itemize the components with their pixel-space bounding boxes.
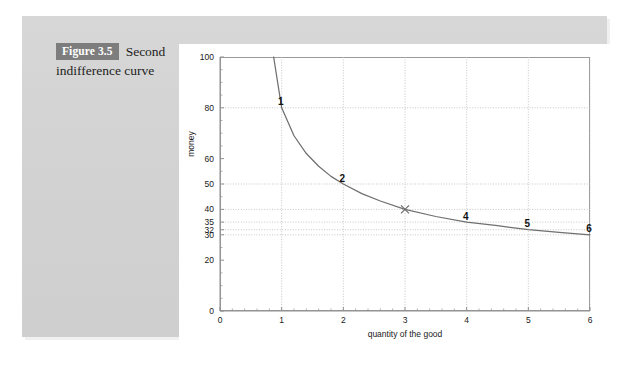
x-tick-label-0: 0 [218,315,223,325]
minor-ticks [220,70,578,311]
point-label-6: 6 [586,223,592,234]
y-tick-label-100: 100 [200,52,214,62]
figure-panel: Figure 3.5Second indifference curve 0203… [22,16,607,337]
x-tick-label-3: 3 [403,315,408,325]
figure-caption-line-1: Second [126,44,166,59]
point-label-1: 1 [278,96,284,107]
y-tick-label-35: 35 [205,217,215,227]
x-tick-label-1: 1 [279,315,284,325]
y-tick-label-40: 40 [205,204,215,214]
x-tick-label-2: 2 [341,315,346,325]
figure-number-badge: Figure 3.5 [56,43,119,60]
y-tick-label-0: 0 [209,306,214,316]
point-label-2: 2 [340,173,346,184]
chart-card: 02030323540506080100012345612456quantity… [179,44,616,340]
point-label-4: 4 [463,211,469,222]
indifference-curve-chart: 02030323540506080100012345612456quantity… [179,44,616,340]
gridlines [220,57,590,311]
figure-caption-line-2: indifference curve [56,62,181,79]
y-axis-title: money [186,130,196,156]
y-tick-label-60: 60 [205,154,215,164]
x-tick-label-5: 5 [526,315,531,325]
figure-caption-block: Figure 3.5Second indifference curve [56,41,181,79]
x-tick-label-4: 4 [464,315,469,325]
y-tick-label-20: 20 [205,255,215,265]
point-label-5: 5 [525,218,531,229]
curve-points: 12456 [278,96,592,234]
indifference-curve-path [274,57,590,235]
y-tick-label-50: 50 [205,179,215,189]
major-ticks: 020303235405060801000123456 [200,52,593,325]
x-tick-label-6: 6 [588,315,593,325]
x-axis-title: quantity of the good [368,329,443,339]
y-tick-label-80: 80 [205,103,215,113]
screenshot-root: Figure 3.5Second indifference curve 0203… [0,0,629,372]
